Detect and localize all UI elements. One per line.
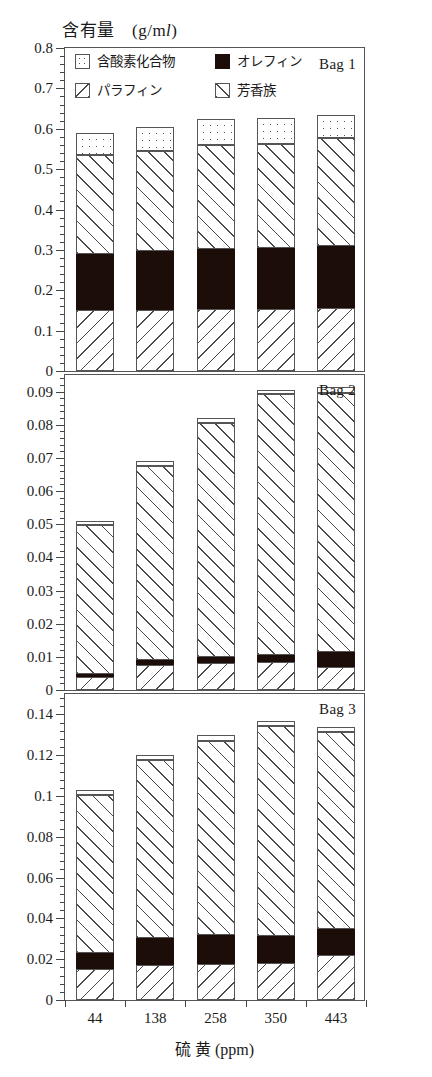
y-tick-minor (60, 869, 65, 870)
y-tick-minor (60, 451, 65, 452)
y-tick-major (56, 290, 65, 291)
y-tick-minor (60, 644, 65, 645)
x-axis-title: 硫 黄 (ppm) (65, 1036, 364, 1060)
y-tick-minor (60, 630, 65, 631)
y-tick-minor (60, 683, 65, 684)
y-tick-major (56, 371, 65, 372)
bar-bag2-138 (136, 461, 174, 690)
y-tick-minor (60, 398, 65, 399)
y-tick-label: 0.07 (27, 449, 53, 466)
bar-segment-olefin (136, 660, 174, 666)
x-tick-label: 138 (144, 1010, 167, 1027)
y-tick-label: 0 (46, 682, 54, 699)
y-tick-major (56, 88, 65, 89)
y-tick-minor (60, 861, 65, 862)
legend-label: 含酸素化合物 (97, 55, 175, 69)
legend-item-olefin: オレフィン (215, 54, 302, 69)
bar-segment-aromatic (136, 151, 174, 251)
y-tick-minor (60, 747, 65, 748)
y-tick-minor (60, 306, 65, 307)
y-tick-minor (60, 504, 65, 505)
y-tick-minor (60, 511, 65, 512)
bar-segment-olefin (136, 938, 174, 966)
bar-bag1-350 (257, 118, 295, 371)
y-tick-minor (60, 894, 65, 895)
x-tick-label: 44 (88, 1010, 103, 1027)
y-tick-major (56, 690, 65, 691)
y-tick-minor (60, 698, 65, 699)
y-tick-minor (60, 323, 65, 324)
y-tick-minor (60, 951, 65, 952)
y-tick-minor (60, 137, 65, 138)
bar-bag1-443 (317, 115, 355, 371)
y-tick-minor (60, 780, 65, 781)
bar-segment-paraffin (76, 310, 114, 371)
plot-area-bag1: 00.10.20.30.40.50.60.70.8Bag 1含酸素化合物オレフィ… (64, 47, 365, 372)
panel-bag1: 00.10.20.30.40.50.60.70.8Bag 1含酸素化合物オレフィ… (64, 47, 365, 372)
bar-segment-aromatic (317, 732, 355, 929)
x-tick (125, 1000, 126, 1007)
y-tick-label: 0.1 (34, 322, 53, 339)
y-tick-minor (60, 820, 65, 821)
y-tick-major (56, 557, 65, 558)
y-tick-minor (60, 226, 65, 227)
bar-segment-aromatic (197, 145, 235, 250)
y-tick-major (56, 331, 65, 332)
legend-item-aromatic: 芳香族 (215, 83, 276, 98)
y-tick-minor (60, 804, 65, 805)
y-tick-minor (60, 121, 65, 122)
y-tick-label: 0.5 (34, 161, 53, 178)
bar-segment-oxygenate (197, 119, 235, 145)
y-tick-major (56, 796, 65, 797)
bar-segment-oxygenate (136, 461, 174, 465)
y-tick-label: 0.4 (34, 201, 53, 218)
y-tick-label: 0 (46, 992, 54, 1009)
bar-segment-olefin (317, 929, 355, 955)
y-tick-minor (60, 378, 65, 379)
y-tick-minor (60, 571, 65, 572)
y-tick-minor (60, 584, 65, 585)
y-tick-major (56, 169, 65, 170)
y-tick-label: 0.06 (27, 483, 53, 500)
bar-bag3-258 (197, 735, 235, 1000)
y-tick-minor (60, 772, 65, 773)
bar-segment-paraffin (317, 667, 355, 690)
y-tick-minor (60, 266, 65, 267)
bar-segment-oxygenate (136, 755, 174, 760)
y-tick-minor (60, 677, 65, 678)
y-tick-minor (60, 339, 65, 340)
bar-segment-olefin (76, 254, 114, 311)
y-tick-minor (60, 72, 65, 73)
bar-bag1-138 (136, 127, 174, 371)
bar-segment-paraffin (197, 964, 235, 1000)
y-tick-minor (60, 242, 65, 243)
bar-segment-oxygenate (317, 115, 355, 138)
panel-bag2: 00.010.020.030.040.050.060.070.080.09Bag… (64, 374, 365, 691)
y-tick-major (56, 878, 65, 879)
y-tick-major (56, 250, 65, 251)
legend-label: パラフィン (97, 84, 162, 98)
bar-segment-aromatic (257, 726, 295, 936)
y-tick-minor (60, 967, 65, 968)
y-tick-minor (60, 637, 65, 638)
y-tick-minor (60, 992, 65, 993)
y-tick-minor (60, 976, 65, 977)
y-tick-major (56, 755, 65, 756)
bar-segment-aromatic (76, 525, 114, 674)
y-tick-major (56, 959, 65, 960)
y-tick-minor (60, 445, 65, 446)
y-tick-minor (60, 537, 65, 538)
bar-segment-olefin (257, 655, 295, 662)
chart-legend: 含酸素化合物オレフィンパラフィン芳香族 (75, 54, 325, 112)
y-tick-minor (60, 258, 65, 259)
y-tick-minor (60, 314, 65, 315)
y-tick-minor (60, 845, 65, 846)
y-tick-minor (60, 498, 65, 499)
y-tick-major (56, 210, 65, 211)
y-axis-title-text: 含有量 (g/ml) (62, 21, 178, 40)
y-tick-minor (60, 177, 65, 178)
y-tick-major (56, 425, 65, 426)
y-tick-major (56, 837, 65, 838)
y-tick-minor (60, 763, 65, 764)
bar-segment-paraffin (136, 310, 174, 371)
